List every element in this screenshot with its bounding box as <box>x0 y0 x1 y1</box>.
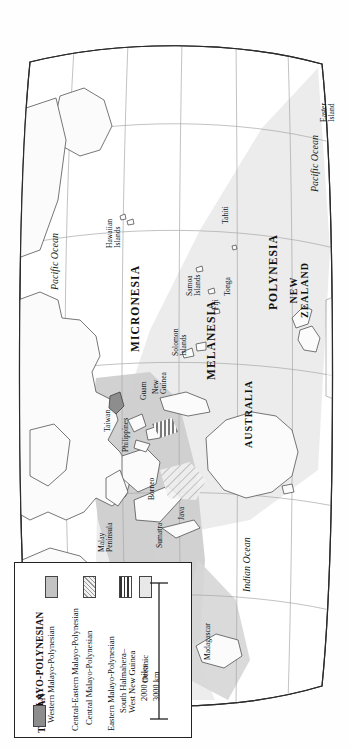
legend-label-central-malayo-polynesian: Central Malayo-Polynesian <box>85 631 94 725</box>
map-label-hawaiian-islands: Hawaiian Islands <box>106 219 123 248</box>
map-label-pacific-ocean-east: Pacific Ocean <box>310 135 320 192</box>
map-label-guam: Guam <box>140 381 148 400</box>
map-label-easter-island: Easter Island <box>320 103 337 122</box>
map-label-indian-ocean: Indian Ocean <box>242 537 252 592</box>
land-south-america <box>326 296 336 400</box>
map-legend: MALAYO-POLYNESIAN Western Malayo-Polynes… <box>14 562 192 738</box>
map-label-new-zealand: NEW ZEALAND <box>288 262 310 318</box>
legend-label-eastern-malayo-polynesian: Eastern Malayo-Polynesian <box>107 636 116 731</box>
legend-swatch-western-malayo-polynesian <box>45 576 58 598</box>
map-label-java: Java <box>178 507 186 521</box>
map-label-malay-peninsula: Malay Peninsula <box>98 522 115 552</box>
land-tasmania <box>282 484 294 494</box>
map-label-madagascar: Madagascar <box>204 623 212 660</box>
map-label-micronesia: MICRONESIA <box>130 265 142 352</box>
map-label-taiwan: Taiwan <box>104 410 112 432</box>
map-label-philippines: Philippines <box>122 418 130 452</box>
scale-label-miles: 2000 miles <box>141 664 149 701</box>
legend-label-western-malayo-polynesian: Western Malayo-Polynesian <box>47 626 56 723</box>
legend-swatch-south-halmahera-west-new-guinea <box>119 576 132 598</box>
legend-label-south-halmahera-west-new-guinea: South Halmahera– West New Guinea <box>119 649 137 713</box>
map-label-polynesia: POLYNESIA <box>268 234 280 310</box>
map-label-pacific-ocean-west: Pacific Ocean <box>50 233 60 290</box>
map-label-fiji: Fiji <box>212 299 220 310</box>
map-label-solomon-islands: Solomon Islands <box>172 329 189 356</box>
map-label-samoa-islands: Samoa Islands <box>186 274 203 296</box>
scale-bar <box>145 577 173 725</box>
map-label-sumatra: Sumatra <box>156 523 164 548</box>
map-figure: MICRONESIA MELANESIA POLYNESIA AUSTRALIA… <box>0 0 351 750</box>
legend-label-central-eastern-malayo-polynesian: Central-Eastern Malayo-Polynesian <box>71 608 80 731</box>
map-label-new-guinea: New Guinea <box>152 372 169 394</box>
legend-swatch-central-malayo-polynesian <box>83 576 96 598</box>
legend-swatch-taiwan <box>33 705 46 727</box>
map-label-australia: AUSTRALIA <box>244 380 254 448</box>
map-label-melanesia: MELANESIA <box>206 300 218 380</box>
map-label-borneo: Borneo <box>148 478 156 500</box>
scale-label-km: 3000 km <box>153 671 161 701</box>
map-label-tahiti: Tahiti <box>222 206 230 224</box>
map-label-tonga: Tonga <box>224 277 232 296</box>
